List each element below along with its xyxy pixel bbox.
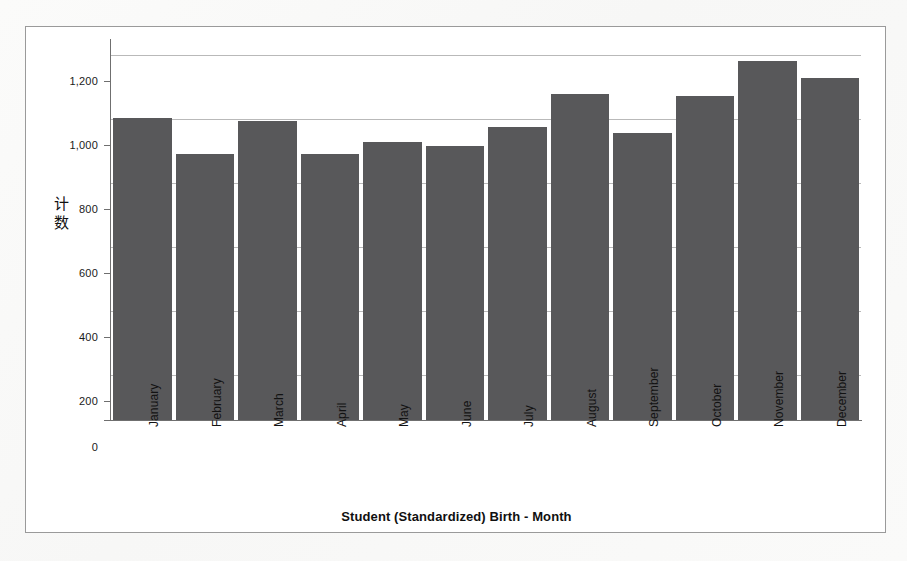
x-tick-label-text: November [772,371,786,427]
x-tick-label-text: April [335,402,349,427]
x-tick-label-text: March [272,393,286,427]
x-tick-label-text: October [710,384,724,427]
bar-january [113,118,172,420]
x-tick-label-text: January [147,384,161,427]
bar-april [301,154,360,420]
y-tick-label-0: 0 [38,441,98,453]
x-tick-label-february: February [197,425,213,520]
x-tick-label-text: July [522,405,536,427]
y-tick-label-800: 800 [38,203,98,215]
gridline-1200 [111,55,861,56]
x-tick-label-july: July [509,425,525,520]
x-tick-label-text: May [397,404,411,427]
x-tick-label-text: December [835,371,849,427]
y-tick-label-400: 400 [38,331,98,343]
x-tick-label-september: September [634,425,650,520]
bar-december [801,78,860,420]
x-tick-label-november: November [759,425,775,520]
x-tick-label-text: June [460,401,474,427]
x-tick-label-march: March [259,425,275,520]
x-tick-label-may: May [384,425,400,520]
x-tick-label-october: October [697,425,713,520]
plot-area [111,39,861,420]
x-tick-label-june: June [447,425,463,520]
x-tick-label-january: January [134,425,150,520]
x-axis-tick-labels: JanuaryFebruaryMarchAprilMayJuneJulyAugu… [111,425,861,520]
bar-october [676,96,735,420]
x-tick-label-text: September [647,367,661,427]
x-tick-label-december: December [822,425,838,520]
bar-june [426,146,485,420]
bar-november [738,61,797,420]
y-tick-label-1200: 1,200 [38,75,98,87]
y-tick-label-1000: 1,000 [38,139,98,151]
bar-march [238,121,297,420]
y-axis-tick-labels: 1,200 1,000 800 600 400 200 0 [32,27,98,447]
x-tick-label-august: August [572,425,588,520]
y-tick-label-200: 200 [38,395,98,407]
x-tick-label-april: April [322,425,338,520]
x-tick-label-text: August [585,389,599,427]
bar-august [551,94,610,420]
y-tick-label-600: 600 [38,267,98,279]
x-tick-label-text: February [210,378,224,427]
bar-july [488,127,547,420]
chart-frame: 计 数 1,200 1,000 800 600 400 200 0 [25,26,886,533]
bar-february [176,154,235,420]
bar-september [613,133,672,420]
x-axis-title: Student (Standardized) Birth - Month [26,509,887,524]
plot-wrapper: 计 数 1,200 1,000 800 600 400 200 0 [26,27,887,534]
bar-may [363,142,422,420]
